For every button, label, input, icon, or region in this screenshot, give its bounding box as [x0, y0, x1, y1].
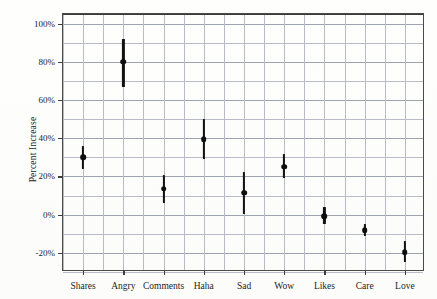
gridline-y-90 [63, 43, 423, 44]
gridline-y-50 [63, 119, 423, 120]
x-tick-label-Comments: Comments [143, 281, 184, 291]
y-tick-20 [58, 176, 63, 177]
gridline-x-Haha-edge [184, 14, 185, 270]
gridline-x-Wow-edge [264, 14, 265, 270]
gridline-y-100 [63, 24, 423, 25]
gridline-x-Comments-center [164, 14, 165, 270]
y-tick-label-60: 60% [39, 95, 56, 105]
gridline-x-Likes-center [324, 14, 325, 270]
y-tick-label-100: 100% [34, 19, 55, 29]
gridline-x-Care-edge [345, 14, 346, 270]
y-tick-label-80: 80% [39, 57, 56, 67]
gridline-x-Sad-edge [224, 14, 225, 270]
gridline-y-70 [63, 81, 423, 82]
gridline-y--10 [63, 234, 423, 235]
y-tick-label-0: 0% [43, 210, 55, 220]
x-tick-label-Likes: Likes [314, 281, 335, 291]
data-point-Comments [161, 186, 167, 192]
data-point-Wow [281, 164, 287, 170]
x-tick-label-Care: Care [356, 281, 374, 291]
data-point-Angry [121, 59, 127, 65]
x-tick-Haha [204, 270, 205, 275]
x-tick-label-Haha: Haha [194, 281, 214, 291]
gridline-y--30 [63, 272, 423, 273]
data-point-Love [402, 249, 408, 255]
y-tick-label-20: 20% [39, 171, 56, 181]
y-tick-60 [58, 100, 63, 101]
y-tick-label-40: 40% [39, 133, 56, 143]
x-tick-Love [405, 270, 406, 275]
gridline-x-Likes-edge [304, 14, 305, 270]
gridline-x-Shares-edge [63, 14, 64, 270]
x-tick-label-Angry: Angry [111, 281, 135, 291]
data-point-Sad [241, 190, 247, 196]
data-point-Likes [322, 213, 328, 219]
chart-page: Percent Increase 100%80%60%40%20%0%-20% … [0, 0, 437, 299]
x-tick-label-Shares: Shares [70, 281, 95, 291]
gridline-y-30 [63, 157, 423, 158]
gridline-x-Sad-center [244, 14, 245, 270]
y-tick--20 [58, 253, 63, 254]
gridline-y--20 [63, 253, 423, 254]
gridline-y-0 [63, 215, 423, 216]
x-tick-Care [365, 270, 366, 275]
x-tick-label-Wow: Wow [274, 281, 294, 291]
data-point-Shares [80, 155, 86, 161]
x-tick-label-Love: Love [395, 281, 415, 291]
gridline-y-60 [63, 100, 423, 101]
gridline-x-Shares-center [83, 14, 84, 270]
y-tick-40 [58, 138, 63, 139]
data-point-Haha [201, 136, 207, 142]
y-tick-label--20: -20% [36, 248, 56, 258]
y-tick-0 [58, 215, 63, 216]
x-tick-Likes [324, 270, 325, 275]
gridline-x-Love-center [405, 14, 406, 270]
x-tick-Wow [284, 270, 285, 275]
data-point-Care [362, 227, 368, 233]
x-tick-label-Sad: Sad [237, 281, 251, 291]
y-tick-80 [58, 62, 63, 63]
x-tick-Sad [244, 270, 245, 275]
gridline-y-40 [63, 138, 423, 139]
gridline-x-Comments-edge [143, 14, 144, 270]
zero-reference-line [63, 14, 423, 15]
gridline-x-Love-edge [385, 14, 386, 270]
x-tick-Angry [123, 270, 124, 275]
x-tick-Comments [164, 270, 165, 275]
plot-area: 100%80%60%40%20%0%-20% SharesAngryCommen… [62, 13, 424, 271]
y-tick-100 [58, 24, 63, 25]
gridline-x-Wow-center [284, 14, 285, 270]
gridline-y-80 [63, 62, 423, 63]
gridline-x-Angry-edge [103, 14, 104, 270]
x-tick-Shares [83, 270, 84, 275]
